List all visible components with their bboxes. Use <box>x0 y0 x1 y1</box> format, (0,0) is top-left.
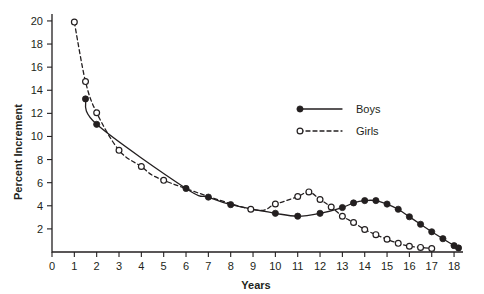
data-point-girls <box>351 220 357 226</box>
data-point-girls <box>373 232 379 238</box>
x-tick-label: 17 <box>426 260 438 272</box>
y-tick-label: 10 <box>31 130 43 142</box>
y-tick-label: 14 <box>31 84 43 96</box>
x-tick-label: 0 <box>49 260 55 272</box>
data-point-girls <box>384 236 390 242</box>
data-point-boys <box>455 245 461 251</box>
x-tick-label: 2 <box>94 260 100 272</box>
legend-label-text: Girls <box>356 125 379 137</box>
data-point-girls <box>395 240 401 246</box>
data-point-boys <box>94 121 100 127</box>
data-point-girls <box>71 19 77 25</box>
x-tick-label: 3 <box>116 260 122 272</box>
chart-series <box>71 19 461 251</box>
x-tick-label: 16 <box>403 260 415 272</box>
data-point-boys <box>350 200 356 206</box>
data-point-boys <box>373 197 379 203</box>
x-tick-label: 5 <box>161 260 167 272</box>
data-point-girls <box>406 243 412 249</box>
data-point-boys <box>82 96 88 102</box>
data-point-girls <box>317 197 323 203</box>
data-point-girls <box>161 177 167 183</box>
data-point-boys <box>362 197 368 203</box>
x-tick-label: 4 <box>138 260 144 272</box>
data-point-boys <box>317 210 323 216</box>
data-point-boys <box>395 206 401 212</box>
data-point-boys <box>339 204 345 210</box>
x-tick-label: 7 <box>205 260 211 272</box>
data-point-girls <box>339 213 345 219</box>
x-tick-label: 8 <box>228 260 234 272</box>
chart-page: 0123456789101112131415161718 24681012141… <box>0 0 484 294</box>
data-point-girls <box>418 244 424 250</box>
data-point-boys <box>295 213 301 219</box>
series-path-boys <box>85 99 458 248</box>
y-axis-ticks <box>47 21 52 229</box>
growth-increment-chart: 0123456789101112131415161718 24681012141… <box>0 0 484 294</box>
data-point-girls <box>306 189 312 195</box>
legend-item-girls: Girls <box>297 125 379 137</box>
data-point-boys <box>384 201 390 207</box>
y-tick-label: 16 <box>31 61 43 73</box>
data-point-girls <box>94 110 100 116</box>
legend-marker <box>297 106 303 112</box>
y-tick-label: 6 <box>37 177 43 189</box>
y-tick-label: 8 <box>37 154 43 166</box>
y-axis-title: Percent Increment <box>12 104 24 200</box>
y-axis-tick-labels: 2468101214161820 <box>31 15 43 235</box>
y-tick-label: 2 <box>37 223 43 235</box>
chart-legend: BoysGirls <box>297 103 381 137</box>
x-tick-label: 10 <box>269 260 281 272</box>
x-tick-label: 15 <box>381 260 393 272</box>
x-axis-title: Years <box>241 279 270 291</box>
data-point-boys <box>272 210 278 216</box>
data-point-girls <box>295 194 301 200</box>
y-tick-label: 4 <box>37 200 43 212</box>
data-point-girls <box>248 206 254 212</box>
legend-label-text: Boys <box>356 103 381 115</box>
y-tick-label: 20 <box>31 15 43 27</box>
data-point-girls <box>138 164 144 170</box>
y-tick-label: 18 <box>31 38 43 50</box>
x-axis-ticks <box>52 252 454 257</box>
x-tick-label: 11 <box>292 260 303 272</box>
x-axis-tick-labels: 0123456789101112131415161718 <box>49 260 460 272</box>
series-boys <box>82 96 461 251</box>
x-tick-label: 12 <box>314 260 326 272</box>
axis-spine <box>52 14 463 252</box>
data-point-girls <box>272 201 278 207</box>
data-point-girls <box>83 79 89 85</box>
legend-item-boys: Boys <box>297 103 381 115</box>
y-tick-label: 12 <box>31 107 43 119</box>
series-girls <box>71 19 434 251</box>
legend-marker <box>297 128 303 134</box>
x-tick-label: 9 <box>250 260 256 272</box>
x-tick-label: 6 <box>183 260 189 272</box>
x-tick-label: 18 <box>448 260 460 272</box>
x-tick-label: 13 <box>336 260 348 272</box>
data-point-girls <box>328 204 334 210</box>
data-point-boys <box>417 221 423 227</box>
x-tick-label: 14 <box>359 260 371 272</box>
data-point-girls <box>116 147 122 153</box>
data-point-boys <box>429 229 435 235</box>
data-point-boys <box>406 214 412 220</box>
chart-axes <box>52 14 463 252</box>
data-point-boys <box>440 236 446 242</box>
data-point-girls <box>362 227 368 233</box>
x-tick-label: 1 <box>71 260 77 272</box>
data-point-girls <box>429 246 435 252</box>
